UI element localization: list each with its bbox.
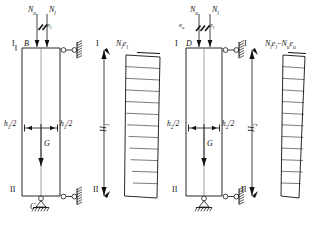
- right-moment-diagram: [281, 53, 306, 199]
- right-label-Nu: Nu: [190, 6, 198, 16]
- left-node-B-label: B: [24, 40, 29, 48]
- left-section-II-right-label: II: [93, 186, 98, 194]
- left-self-weight-arrow: [38, 132, 43, 166]
- right-node-D-label: D: [186, 40, 192, 48]
- left-height-label: H1: [100, 124, 110, 133]
- right-self-weight-label: G: [207, 140, 213, 148]
- left-section-I-label: I: [12, 40, 15, 48]
- diagram-canvas: Nu Nl el I B I h1/2 h1/2 G II C II H1 Nl…: [0, 0, 325, 233]
- right-label-el: el: [210, 22, 214, 31]
- right-top-roller-support: [223, 41, 244, 59]
- right-height-label: H2: [248, 124, 258, 133]
- left-section-II-label: II: [10, 186, 15, 194]
- right-bottom-supports: [195, 187, 244, 211]
- left-moment-diagram: [125, 53, 161, 199]
- right-width-dimension: [188, 124, 220, 132]
- right-section-I-label: I: [175, 40, 178, 48]
- right-h2-right-label: h2/2: [222, 120, 234, 130]
- left-moment-diagram-label: Nlel: [116, 40, 128, 50]
- right-label-eu: eu: [179, 22, 184, 31]
- diagram-vector-layer: [0, 0, 325, 233]
- right-h2-left-label: h2/2: [167, 120, 179, 130]
- left-h1-left-label: h1/2: [4, 120, 16, 130]
- left-width-dimension: [24, 124, 58, 132]
- left-self-weight-label: G: [44, 140, 50, 148]
- right-self-weight-arrow: [201, 132, 206, 166]
- right-label-Nl: Nl: [212, 6, 219, 16]
- right-section-II-label: II: [172, 186, 177, 194]
- left-section-I-right-label: I: [96, 40, 99, 48]
- right-section-I-right-label: I: [244, 40, 247, 48]
- left-top-roller-support: [61, 41, 82, 59]
- left-label-Nu: Nu: [28, 6, 36, 16]
- left-bottom-supports: [32, 187, 82, 211]
- right-moment-diagram-label: Nlel−Nueu: [265, 40, 296, 50]
- left-label-el: el: [47, 22, 51, 31]
- left-h1-right-label: h1/2: [60, 120, 72, 130]
- left-node-C-label: C: [30, 203, 35, 211]
- right-section-II-right-label: II: [241, 186, 246, 194]
- left-label-Nl: Nl: [49, 6, 56, 16]
